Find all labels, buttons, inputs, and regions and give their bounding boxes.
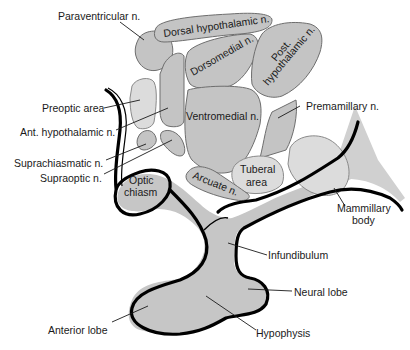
mammillary-body bbox=[288, 136, 349, 196]
mammillary-label-2: body bbox=[352, 214, 376, 226]
anterior-lobe-label: Anterior lobe bbox=[48, 324, 108, 336]
paraventricular-label: Paraventricular n. bbox=[58, 10, 140, 22]
premamillary-label: Premamillary n. bbox=[306, 100, 379, 112]
supraoptic-nucleus bbox=[161, 130, 185, 156]
infundibulum-label: Infundibulum bbox=[268, 249, 328, 261]
optic-chiasm-label-1: Optic bbox=[129, 174, 154, 186]
ant-hypothalamic-nucleus bbox=[160, 53, 184, 127]
suprachiasmatic-label: Suprachiasmatic n. bbox=[14, 157, 103, 169]
ventromedial-label: Ventromedial n. bbox=[186, 110, 259, 122]
preoptic-label: Preoptic area bbox=[42, 102, 105, 114]
ant-hypothalamic-label: Ant. hypothalamic n. bbox=[20, 126, 115, 138]
optic-chiasm-label-2: chiasm bbox=[124, 186, 158, 198]
neural-lobe-label: Neural lobe bbox=[294, 286, 348, 298]
suprachiasmatic-nucleus bbox=[137, 131, 156, 150]
preoptic-area bbox=[130, 79, 156, 129]
tuberal-label-1: Tuberal bbox=[240, 163, 275, 175]
mammillary-label-1: Mammillary bbox=[337, 202, 391, 214]
tuberal-label-2: area bbox=[246, 176, 267, 188]
hypothalamus-diagram: Dorsal hypothalamic n. Dorsomedial n. Po… bbox=[0, 0, 410, 350]
hypophysis-label: Hypophysis bbox=[256, 327, 310, 339]
supraoptic-label: Supraoptic n. bbox=[40, 172, 102, 184]
